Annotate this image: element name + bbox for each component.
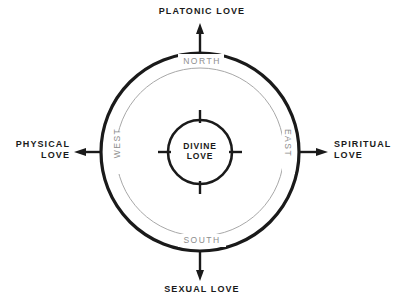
up-arrow-icon — [196, 23, 204, 34]
cardinal-label-south: SOUTH — [0, 235, 404, 245]
cardinal-label-north: NORTH — [0, 56, 404, 66]
cardinal-label-east: EAST — [283, 121, 293, 165]
label-spiritual-love: SPIRITUAL LOVE — [334, 139, 400, 161]
center-label-divine-love: DIVINE LOVE — [160, 141, 240, 161]
label-sexual-love: SEXUAL LOVE — [0, 284, 404, 295]
right-arrow-icon — [316, 148, 328, 156]
down-arrow-icon — [196, 270, 204, 281]
love-compass-diagram: PLATONIC LOVE SPIRITUAL LOVE SEXUAL LOVE… — [0, 0, 404, 303]
label-physical-love: PHYSICAL LOVE — [6, 139, 70, 161]
label-platonic-love: PLATONIC LOVE — [0, 6, 404, 17]
cardinal-label-west: WEST — [112, 121, 122, 165]
left-arrow-icon — [74, 148, 86, 156]
